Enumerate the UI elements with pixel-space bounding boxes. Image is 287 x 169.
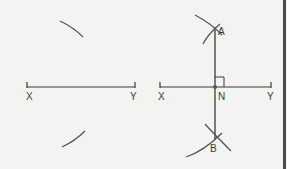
- label-b: B: [210, 143, 217, 154]
- lower-arc-left: [62, 131, 85, 147]
- label-y-left: Y: [130, 91, 137, 102]
- label-y-right: Y: [267, 91, 274, 102]
- right-angle-mark: [215, 77, 224, 87]
- label-x-left: X: [26, 91, 33, 102]
- right-panel: X Y N A B: [158, 15, 274, 157]
- midpoint-n-dot: [213, 85, 217, 89]
- page-border-right: [283, 0, 286, 169]
- label-x-right: X: [158, 91, 165, 102]
- left-panel: X Y: [26, 21, 137, 147]
- construction-diagram: X Y X Y N A B: [0, 0, 287, 169]
- upper-arc-left: [60, 21, 83, 37]
- label-a: A: [218, 26, 225, 37]
- label-n: N: [218, 91, 225, 102]
